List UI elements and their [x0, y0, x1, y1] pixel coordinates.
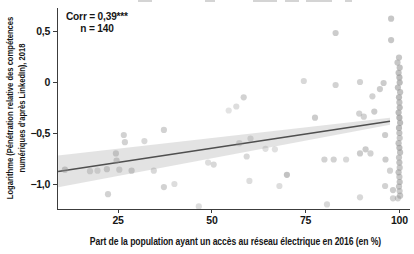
data-point — [129, 168, 135, 174]
data-point — [397, 149, 403, 155]
data-point — [397, 120, 403, 126]
y-axis-title: Logarithme (Pénétration relative des com… — [4, 0, 28, 216]
y-tick-label: 0,5 — [36, 25, 50, 37]
data-point — [387, 168, 393, 174]
y-axis-title-line2: numériques d'après LinkedIn), 2018 — [16, 0, 28, 216]
data-point — [388, 16, 394, 22]
x-axis-title: Part de la population ayant un accès au … — [89, 235, 382, 247]
data-point — [205, 160, 211, 166]
scatter-plot: 2550751000,50−0,5−1,0 — [0, 0, 414, 254]
data-point — [105, 191, 111, 197]
data-point — [367, 150, 373, 156]
y-axis-title-line1: Logarithme (Pénétration relative des com… — [4, 0, 16, 216]
data-point — [236, 140, 242, 146]
data-point — [357, 150, 363, 156]
data-point — [382, 156, 388, 162]
data-point — [262, 146, 268, 152]
data-point — [141, 138, 147, 144]
data-point — [276, 183, 282, 189]
data-point — [361, 114, 367, 120]
x-tick-label: 75 — [300, 214, 312, 226]
data-point — [113, 150, 119, 156]
correlation-value: Corr = 0,39*** — [66, 11, 128, 23]
data-point — [171, 181, 177, 187]
data-point — [312, 115, 318, 121]
data-point — [324, 201, 330, 207]
regression-line — [58, 121, 390, 171]
data-point — [114, 157, 120, 163]
data-point — [397, 89, 403, 95]
data-point — [333, 30, 339, 36]
data-point — [246, 178, 252, 184]
data-point — [369, 93, 375, 99]
data-point — [343, 156, 349, 162]
x-tick-label: 25 — [113, 214, 125, 226]
data-point — [395, 195, 401, 201]
data-point — [151, 168, 157, 174]
data-point — [284, 172, 290, 178]
data-point — [122, 139, 128, 145]
chart-figure: 2550751000,50−0,5−1,0 Corr = 0,39*** n =… — [0, 0, 414, 254]
data-point — [371, 109, 377, 115]
data-point — [87, 168, 93, 174]
y-tick-label: −0,5 — [30, 127, 50, 139]
y-tick-label: −1,0 — [30, 178, 50, 190]
data-point — [333, 82, 339, 88]
data-point — [233, 103, 239, 109]
data-point — [377, 86, 383, 92]
correlation-annotation: Corr = 0,39*** n = 140 — [66, 11, 128, 34]
x-tick-label: 100 — [391, 214, 408, 226]
data-point — [397, 135, 403, 141]
data-point — [211, 162, 217, 168]
data-point — [161, 184, 167, 190]
y-tick-label: 0 — [44, 76, 50, 88]
data-point — [382, 183, 388, 189]
data-point — [397, 104, 403, 110]
data-point — [116, 167, 122, 173]
data-point — [390, 187, 396, 193]
data-point — [357, 194, 363, 200]
data-point — [94, 168, 100, 174]
data-point — [104, 166, 110, 172]
sample-size: n = 140 — [66, 23, 128, 35]
data-point — [381, 80, 387, 86]
data-point — [357, 79, 363, 85]
data-point — [247, 136, 253, 142]
data-point — [301, 78, 307, 84]
x-tick-label: 50 — [206, 214, 218, 226]
data-point — [161, 127, 167, 133]
data-point — [363, 146, 369, 152]
data-point — [388, 37, 394, 43]
data-point — [321, 156, 327, 162]
data-point — [331, 156, 337, 162]
data-point — [397, 65, 403, 71]
data-point — [241, 94, 247, 100]
data-point — [272, 146, 278, 152]
data-point — [121, 132, 127, 138]
data-point — [382, 132, 388, 138]
data-point — [62, 167, 68, 173]
data-point — [244, 153, 250, 159]
data-point — [226, 107, 232, 113]
